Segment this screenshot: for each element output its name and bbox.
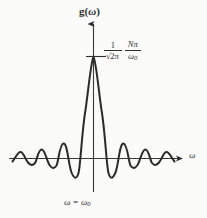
fraction-numerator: 1	[109, 41, 117, 51]
n-pi-over-omega-zero-fraction: Nπ ω0	[125, 40, 141, 61]
y-axis-label: g(ω)	[79, 6, 100, 17]
denominator-subscript: 0	[134, 54, 137, 61]
fraction-denominator: ω0	[126, 51, 139, 62]
fraction-denominator: √2π	[104, 51, 122, 61]
y-axis-label-prefix: g(	[79, 5, 88, 17]
y-axis-label-suffix: )	[96, 5, 100, 17]
one-over-sqrt-two-pi-fraction: 1 √2π	[104, 41, 122, 61]
x-axis-label: ω	[189, 151, 195, 160]
center-frequency-label: ω = ω0	[64, 198, 91, 208]
radicand: 2π	[109, 50, 120, 61]
center-frequency-label-subscript: 0	[87, 200, 90, 207]
plot-canvas	[0, 0, 207, 218]
sinc-function-figure: g(ω) ω ω = ω0 1 √2π Nπ ω0	[0, 0, 207, 218]
center-frequency-label-text: ω = ω	[64, 197, 87, 207]
y-axis-label-variable: ω	[88, 5, 96, 17]
peak-value-annotation: 1 √2π Nπ ω0	[104, 40, 141, 61]
fraction-numerator: Nπ	[126, 40, 140, 50]
